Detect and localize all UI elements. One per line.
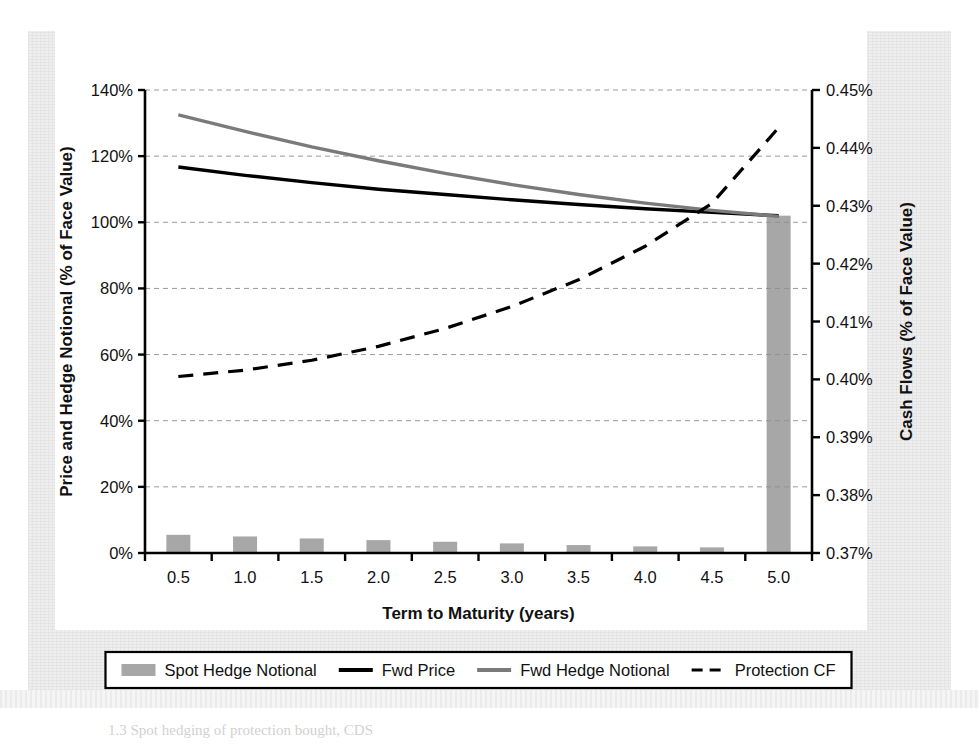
y-tick-label-right: 0.38%	[826, 486, 873, 504]
chart-canvas: 0%20%40%60%80%100%120%140%0.37%0.38%0.39…	[28, 31, 951, 690]
x-tick-label: 2.5	[434, 568, 457, 586]
x-tick-label: 3.5	[567, 568, 590, 586]
figure-page: 0%20%40%60%80%100%120%140%0.37%0.38%0.39…	[0, 0, 979, 748]
x-tick-label: 4.5	[700, 568, 723, 586]
series-line	[178, 128, 778, 377]
y-tick-label-left: 0%	[109, 544, 133, 562]
y-tick-label-right: 0.43%	[826, 197, 873, 215]
x-tick-label: 3.0	[500, 568, 523, 586]
y-tick-label-left: 80%	[100, 279, 133, 297]
bar-spot-hedge-notional	[233, 536, 257, 553]
legend-label: Spot Hedge Notional	[164, 661, 316, 679]
series-line	[178, 115, 778, 217]
legend-marker-spot-hedge-notional	[121, 664, 155, 676]
bar-spot-hedge-notional	[300, 538, 324, 553]
y-tick-label-left: 60%	[100, 346, 133, 364]
y-tick-label-left: 40%	[100, 412, 133, 430]
x-axis-title: Term to Maturity (years)	[382, 604, 574, 623]
y-tick-label-right: 0.45%	[826, 81, 873, 99]
bar-spot-hedge-notional	[166, 535, 190, 553]
figure-caption: 1.3 Spot hedging of protection bought, C…	[108, 722, 373, 739]
y-axis-title-right: Cash Flows (% of Face Value)	[897, 202, 916, 441]
y-tick-label-right: 0.41%	[826, 313, 873, 331]
legend-label: Protection CF	[735, 661, 836, 679]
x-tick-label: 0.5	[167, 568, 190, 586]
y-tick-label-right: 0.37%	[826, 544, 873, 562]
y-tick-label-left: 140%	[91, 81, 134, 99]
y-tick-label-right: 0.44%	[826, 139, 873, 157]
y-tick-label-left: 120%	[91, 147, 134, 165]
bar-spot-hedge-notional	[433, 542, 457, 553]
y-tick-label-right: 0.39%	[826, 428, 873, 446]
x-tick-label: 2.0	[367, 568, 390, 586]
x-tick-label: 1.5	[300, 568, 323, 586]
y-tick-label-right: 0.42%	[826, 255, 873, 273]
y-tick-label-left: 100%	[91, 213, 134, 231]
y-tick-label-left: 20%	[100, 478, 133, 496]
x-tick-label: 4.0	[634, 568, 657, 586]
y-tick-label-right: 0.40%	[826, 370, 873, 388]
legend-label: Fwd Price	[382, 661, 455, 679]
legend-label: Fwd Hedge Notional	[520, 661, 670, 679]
y-axis-title-left: Price and Hedge Notional (% of Face Valu…	[57, 146, 76, 496]
bar-spot-hedge-notional	[767, 216, 791, 553]
bar-spot-hedge-notional	[366, 540, 390, 553]
caption-strip	[0, 690, 979, 708]
x-tick-label: 5.0	[767, 568, 790, 586]
bar-spot-hedge-notional	[500, 543, 524, 553]
chart-container: 0%20%40%60%80%100%120%140%0.37%0.38%0.39…	[28, 31, 951, 690]
x-tick-label: 1.0	[234, 568, 257, 586]
